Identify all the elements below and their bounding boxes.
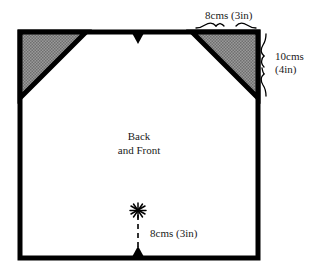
measurement-right-metric: 10cms bbox=[275, 50, 304, 62]
diagram-canvas: 8cms (3in) 10cms(4in) 8cms (3in) Backand… bbox=[0, 0, 312, 276]
panel-name-line2: and Front bbox=[118, 144, 160, 156]
measurement-label-right: 10cms(4in) bbox=[275, 50, 304, 75]
panel-name-label: Backand Front bbox=[98, 129, 180, 157]
measurement-label-bottom: 8cms (3in) bbox=[150, 227, 197, 240]
measurement-label-top: 8cms (3in) bbox=[205, 9, 252, 22]
panel-name-line1: Back bbox=[128, 130, 151, 142]
curly-brace-vertical-icon bbox=[261, 34, 266, 96]
measurement-right-imperial: (4in) bbox=[275, 63, 296, 75]
curly-brace-horizontal-icon bbox=[196, 23, 256, 28]
